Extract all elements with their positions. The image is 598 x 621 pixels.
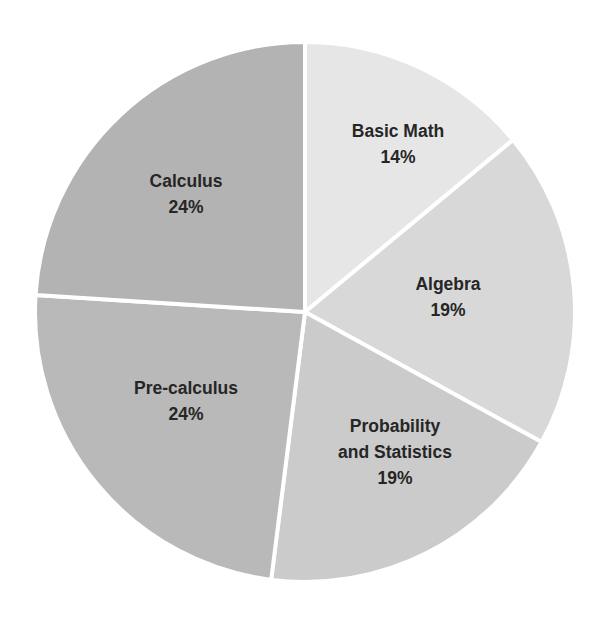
pie-slice-pre-calculus <box>35 295 305 580</box>
slice-percentage: 24% <box>168 197 203 217</box>
slice-percentage: 14% <box>380 147 415 167</box>
pie-chart: Basic Math14%Algebra19%Probabilityand St… <box>0 0 598 621</box>
slice-percentage: 19% <box>430 300 465 320</box>
slice-name: Pre-calculus <box>134 378 238 398</box>
pie-slices <box>33 40 577 584</box>
slice-name: Basic Math <box>352 121 444 141</box>
slice-percentage: 19% <box>377 468 412 488</box>
slice-percentage: 24% <box>168 404 203 424</box>
slice-name: and Statistics <box>338 442 452 462</box>
slice-name: Algebra <box>415 274 480 294</box>
slice-name: Calculus <box>150 171 223 191</box>
slice-name: Probability <box>350 416 441 436</box>
